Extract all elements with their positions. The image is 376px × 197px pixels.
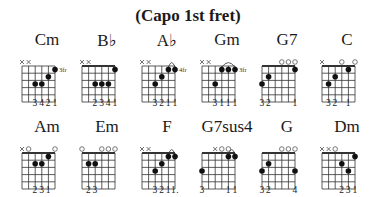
open-string-icon [53,147,58,152]
finger-dot-icon [46,154,52,160]
fingering-numbers: 3211. [140,185,194,197]
fretboard-grid [140,139,194,191]
finger-number: 2 [265,98,273,108]
finger-dot-icon [159,74,165,80]
chord-name: C [320,30,374,50]
fingering-numbers: 324 [260,185,314,197]
fingering-numbers: 321 [320,98,374,110]
finger-number: 1 [231,185,239,195]
open-string-icon [26,147,31,152]
finger-number: 2 [331,98,339,108]
finger-dot-icon [52,67,58,73]
finger-dot-icon [352,154,358,160]
fretboard-grid: 4fr [140,52,194,104]
fretboard-grid: 3fr [20,52,74,104]
finger-dot-icon [219,67,225,73]
finger-dot-icon [212,81,218,87]
finger-dot-icon [232,67,238,73]
finger-number: 4 [291,185,299,195]
finger-dot-icon [172,67,178,73]
finger-number: 1. [171,185,179,195]
chord-name: Cm [20,30,74,50]
fingering-numbers: 231 [20,185,74,197]
chord-name: A♭ [140,30,194,51]
fingering-numbers: 231 [320,185,374,197]
finger-dot-icon [152,81,158,87]
fretboard-grid [80,52,134,104]
finger-dot-icon [106,81,112,87]
fret-position-label: 3fr [239,66,247,73]
fretboard-grid [320,52,374,104]
fretboard-grid [260,52,314,104]
finger-dot-icon [259,81,265,87]
open-string-icon [286,60,291,65]
finger-number: 1 [291,98,299,108]
finger-dot-icon [292,168,298,174]
fingering-numbers: 311 [200,185,254,197]
finger-dot-icon [332,74,338,80]
finger-dot-icon [32,81,38,87]
finger-number: 1 [231,98,239,108]
finger-dot-icon [92,81,98,87]
finger-number: 1 [111,98,119,108]
finger-dot-icon [266,161,272,167]
open-string-icon [100,147,105,152]
fretboard-grid [260,139,314,191]
finger-dot-icon [172,154,178,160]
chord-name: Dm [320,117,374,137]
chord-name: Em [80,117,134,137]
finger-dot-icon [166,154,172,160]
open-string-icon [286,147,291,152]
finger-dot-icon [32,161,38,167]
fret-position-label: 3fr [59,66,67,73]
chord-name: Am [20,117,74,137]
finger-dot-icon [326,81,332,87]
open-string-icon [293,60,298,65]
open-string-icon [340,60,345,65]
open-string-icon [106,147,111,152]
finger-dot-icon [339,161,345,167]
fingering-numbers: 3111 [200,98,254,110]
finger-dot-icon [86,161,92,167]
finger-dot-icon [226,154,232,160]
open-string-icon [220,147,225,152]
finger-number: 3 [198,185,206,195]
fingering-numbers: 2341 [80,98,134,110]
finger-dot-icon [39,81,45,87]
page-title: (Capo 1st fret) [0,6,376,26]
fret-position-label: 4fr [179,66,187,73]
finger-dot-icon [259,168,265,174]
fingering-numbers: 3211 [140,98,194,110]
chord-name: G7sus4 [200,117,254,137]
open-string-icon [293,147,298,152]
fingering-numbers: 321 [260,98,314,110]
finger-dot-icon [266,74,272,80]
open-string-icon [353,60,358,65]
finger-number: 1 [171,98,179,108]
fingering-numbers: 23 [80,185,134,197]
fretboard-grid [200,139,254,191]
finger-dot-icon [152,168,158,174]
fretboard-grid [320,139,374,191]
finger-number: 1 [344,98,352,108]
open-string-icon [280,147,285,152]
finger-number: 2 [265,185,273,195]
finger-dot-icon [159,161,165,167]
chord-name: B♭ [80,30,134,51]
fretboard-grid [20,139,74,191]
finger-number: 1 [44,185,52,195]
chord-name: G [260,117,314,137]
open-string-icon [80,147,85,152]
finger-dot-icon [346,168,352,174]
open-string-icon [333,147,338,152]
chord-name: Gm [200,30,254,50]
fingering-numbers: 3421 [20,98,74,110]
open-string-icon [280,60,285,65]
barre-arc-icon [168,63,175,68]
finger-dot-icon [46,74,52,80]
finger-number: 3 [91,185,99,195]
finger-dot-icon [92,161,98,167]
finger-dot-icon [292,67,298,73]
chord-name: G7 [260,30,314,50]
finger-dot-icon [226,67,232,73]
